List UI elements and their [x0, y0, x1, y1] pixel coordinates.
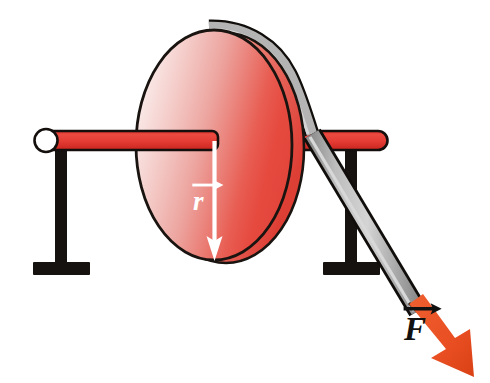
- radius-vector-label: r: [193, 188, 204, 215]
- physics-figure: r F: [0, 0, 490, 383]
- gray-belt-strap: [310, 134, 424, 318]
- force-vector-symbol: F: [404, 313, 426, 346]
- left-i-beam-stand: [33, 148, 90, 275]
- vector-arrow-overbar-f: [402, 299, 443, 316]
- force-vector-label: F: [404, 313, 426, 346]
- red-axle-rod-left-segment: [35, 129, 219, 152]
- radius-vector-symbol: r: [193, 188, 204, 215]
- axle-rod-end-cap: [35, 129, 58, 152]
- vector-arrow-overbar-r: [191, 177, 225, 191]
